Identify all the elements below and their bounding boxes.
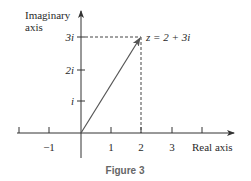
x-tick-label: 2 [138, 141, 144, 153]
x-axis-ticks [19, 127, 202, 133]
y-axis-label-line2: axis [25, 21, 43, 33]
y-tick-label: 2i [65, 64, 74, 76]
y-tick-label: i [71, 95, 74, 107]
y-tick-label: 3i [64, 31, 74, 43]
figure-caption: Figure 3 [106, 165, 145, 176]
vector-z-arrow [81, 38, 140, 133]
x-tick-label: −1 [43, 141, 55, 153]
x-tick-label: 3 [169, 141, 175, 153]
x-axis-label: Real axis [192, 141, 233, 153]
point-label: z = 2 + 3i [145, 31, 190, 43]
y-axis-label: Imaginary [25, 9, 71, 21]
x-tick-label: 1 [108, 141, 114, 153]
complex-plane-figure: −1 1 2 3 i 2i 3i Imaginary axis Real axi… [0, 0, 251, 181]
